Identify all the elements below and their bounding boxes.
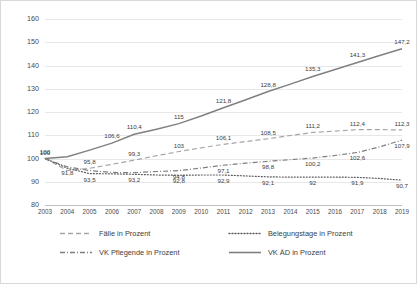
data-point-label: 106,6 [104,133,119,139]
x-axis-tick-label: 2006 [105,209,119,215]
data-point-label: 92 [309,180,316,186]
data-point-label: 100 [40,148,50,154]
y-axis-tick-label: 130 [27,85,39,92]
x-axis-tick-label: 2010 [194,209,208,215]
legend-line-icon [59,229,93,238]
legend-item-label: VK ÄD in Prozent [268,249,326,256]
legend-swatch-icon [59,248,93,257]
x-axis-tick-label: 2011 [217,209,231,215]
data-point-label: 108,5 [260,130,275,136]
data-point-label: 93,2 [128,177,140,183]
x-axis-tick-label: 2012 [239,209,253,215]
data-point-label: 100,2 [305,161,320,167]
data-point-label: 103 [174,142,184,148]
legend-item[interactable]: VK Pflegende in Prozent [59,248,216,257]
data-point-label: 92,1 [262,180,274,186]
legend-item[interactable]: Fälle in Prozent [59,229,216,238]
data-point-label: 91,9 [351,180,363,186]
legend-swatch-icon [59,229,93,238]
data-point-label: 98,8 [262,164,274,170]
data-point-label: 99,3 [128,151,140,157]
data-point-label: 90,7 [396,183,408,189]
legend-swatch-icon [228,248,262,257]
data-point-label: 135,3 [305,66,320,72]
x-axis-tick-label: 2019 [395,209,409,215]
data-point-label: 92,9 [217,178,229,184]
x-axis-tick-label: 2014 [283,209,297,215]
x-axis-tick-label: 2016 [328,209,342,215]
data-point-label: 107,9 [394,143,409,149]
x-axis-tick-label: 2004 [60,209,74,215]
x-axis-tick-label: 2008 [150,209,164,215]
y-axis-tick-label: 110 [28,132,39,139]
data-point-label: 106,1 [216,135,231,141]
data-point-label: 115 [174,114,184,120]
data-point-label: 95,8 [84,159,96,165]
x-axis-tick-label: 2003 [38,209,52,215]
x-axis-tick-label: 2015 [306,209,320,215]
data-point-label: 97,1 [217,168,229,174]
x-axis-tick-label: 2018 [373,209,387,215]
y-axis-tick-label: 90 [31,178,39,185]
y-axis-tick-label: 160 [27,15,39,22]
data-point-label: 112,3 [394,121,409,127]
data-point-label: 102,6 [350,155,365,161]
x-axis-tick-label: 2005 [83,209,97,215]
legend-line-icon [59,248,93,257]
chart-legend: Fälle in ProzentBelegungstage in Prozent… [59,229,389,257]
chart-container: 8090100110120130140150160 20032004200520… [0,0,417,284]
y-axis-tick-label: 120 [27,108,39,115]
y-axis-tick-label: 140 [27,62,39,69]
legend-item-label: VK Pflegende in Prozent [99,249,180,256]
data-point-label: 128,8 [260,81,275,87]
data-point-label: 94,8 [173,173,185,179]
legend-item-label: Belegungstage in Prozent [268,230,353,237]
data-point-label: 110,4 [127,124,142,130]
data-point-label: 93,5 [84,177,96,183]
data-point-label: 111,2 [305,123,320,129]
data-point-label: 112,4 [350,121,365,127]
y-axis-tick-label: 100 [27,155,39,162]
plot-area: 8090100110120130140150160 20032004200520… [45,19,402,205]
data-point-label: 91,8 [61,170,73,176]
legend-line-icon [228,248,262,257]
legend-line-icon [228,229,262,238]
gridline [45,205,402,206]
x-axis-tick-label: 2013 [261,209,275,215]
data-point-label: 121,8 [216,98,231,104]
data-point-label: 147,2 [394,39,409,45]
legend-item[interactable]: Belegungstage in Prozent [216,229,389,238]
x-axis-tick-label: 2017 [350,209,364,215]
legend-swatch-icon [228,229,262,238]
y-axis-tick-label: 150 [27,39,39,46]
x-axis-tick-label: 2009 [172,209,186,215]
x-axis-tick-label: 2007 [127,209,141,215]
legend-item[interactable]: VK ÄD in Prozent [216,248,389,257]
legend-item-label: Fälle in Prozent [99,230,150,237]
data-point-label: 141,3 [350,52,365,58]
